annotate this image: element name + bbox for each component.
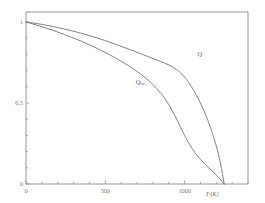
data-curves (26, 22, 224, 184)
series-label: Q (197, 50, 202, 58)
series-label-text: Q (197, 50, 202, 58)
x-tick-label: 0 (24, 187, 27, 194)
x-axis-ticks (26, 181, 248, 185)
curve-q (26, 22, 224, 184)
y-tick-label: 0 (20, 180, 23, 187)
y-axis-tick-labels: 00.51 (15, 18, 23, 187)
series-label-subscript: ref (140, 81, 145, 86)
x-axis-tick-labels: 05001000 (24, 187, 190, 194)
axes-frame (26, 12, 248, 184)
x-tick-label: 500 (101, 187, 110, 194)
y-axis-ticks (26, 22, 30, 184)
y-tick-label: 1 (20, 18, 23, 25)
chart-figure: 05001000 00.51 T (K) QQref (0, 0, 265, 203)
x-tick-label: 1000 (178, 187, 190, 194)
curve-q-ref (26, 22, 224, 184)
series-label: Qref (135, 78, 145, 87)
y-tick-label: 0.5 (15, 99, 23, 106)
x-axis-label: T (K) (205, 190, 218, 198)
line-chart: 05001000 00.51 T (K) QQref (0, 0, 265, 203)
